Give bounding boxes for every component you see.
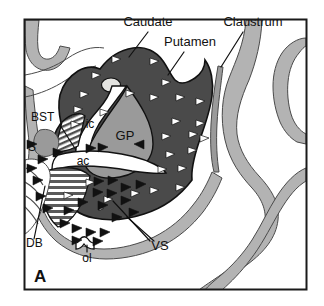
label-ac: ac <box>77 154 90 168</box>
figure-panel-a: Caudate Putamen Claustrum BST S ic GP ac… <box>0 0 324 306</box>
label-vs: VS <box>151 238 169 253</box>
panel-letter: A <box>34 267 46 286</box>
label-bst: BST <box>31 110 55 124</box>
label-s: S <box>28 140 36 154</box>
label-ol: ol <box>82 251 91 265</box>
label-ic: ic <box>86 117 95 131</box>
label-db: DB <box>26 236 43 250</box>
anatomical-diagram: Caudate Putamen Claustrum BST S ic GP ac… <box>0 0 324 306</box>
label-claustrum: Claustrum <box>223 14 282 29</box>
label-caudate: Caudate <box>123 14 172 29</box>
label-putamen: Putamen <box>164 34 216 49</box>
label-gp: GP <box>116 128 135 143</box>
